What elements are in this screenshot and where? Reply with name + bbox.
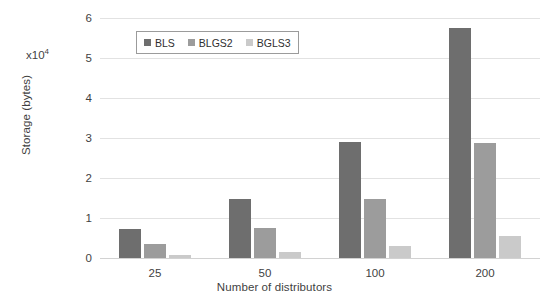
legend-item-blgs2[interactable]: BLGS2 — [188, 37, 233, 49]
x-axis-tick-label: 100 — [345, 267, 405, 279]
y-axis-tick-label: 4 — [52, 92, 92, 104]
y-axis-tick-label: 1 — [52, 212, 92, 224]
legend-item-bgls3[interactable]: BGLS3 — [246, 37, 291, 49]
y-axis-multiplier: x104 — [26, 49, 49, 61]
bar-bls-200 — [449, 28, 471, 258]
bar-bls-100 — [339, 142, 361, 258]
x-axis-title: Number of distributors — [0, 281, 549, 293]
y-axis-tick-label: 5 — [52, 52, 92, 64]
bar-bls-50 — [229, 199, 251, 258]
y-axis-multiplier-exponent: 4 — [45, 47, 49, 56]
bar-blgs2-100 — [364, 199, 386, 258]
legend-swatch-icon — [246, 39, 253, 46]
legend-label: BLS — [155, 37, 175, 49]
y-axis-title-text: Storage (bytes) — [16, 15, 36, 215]
gridline — [100, 58, 540, 59]
bar-bgls3-100 — [389, 246, 411, 258]
x-axis-tick-label: 25 — [125, 267, 185, 279]
x-axis-tick-label: 200 — [455, 267, 515, 279]
y-axis-tick-label: 6 — [52, 12, 92, 24]
legend-swatch-icon — [144, 39, 151, 46]
legend-swatch-icon — [188, 39, 195, 46]
bar-blgs2-200 — [474, 143, 496, 258]
y-axis-multiplier-base: x10 — [26, 49, 45, 61]
gridline — [100, 18, 540, 19]
plot-area: 01234562550100200 — [100, 18, 540, 258]
chart-legend: BLSBLGS2BGLS3 — [136, 31, 299, 54]
bar-blgs2-25 — [144, 244, 166, 258]
bar-chart-figure: Storage (bytes) x104 01234562550100200 N… — [0, 0, 549, 303]
bar-bls-25 — [119, 229, 141, 258]
x-axis-tick-label: 50 — [235, 267, 295, 279]
legend-item-bls[interactable]: BLS — [144, 37, 175, 49]
bar-bgls3-50 — [279, 252, 301, 258]
y-axis-tick-label: 3 — [52, 132, 92, 144]
gridline — [100, 98, 540, 99]
y-axis-tick-label: 2 — [52, 172, 92, 184]
gridline — [100, 138, 540, 139]
bar-bgls3-200 — [499, 236, 521, 258]
y-axis-tick-label: 0 — [52, 252, 92, 264]
legend-label: BLGS2 — [199, 37, 233, 49]
bar-bgls3-25 — [169, 255, 191, 258]
x-axis-line — [100, 258, 540, 259]
bar-blgs2-50 — [254, 228, 276, 258]
legend-label: BGLS3 — [257, 37, 291, 49]
